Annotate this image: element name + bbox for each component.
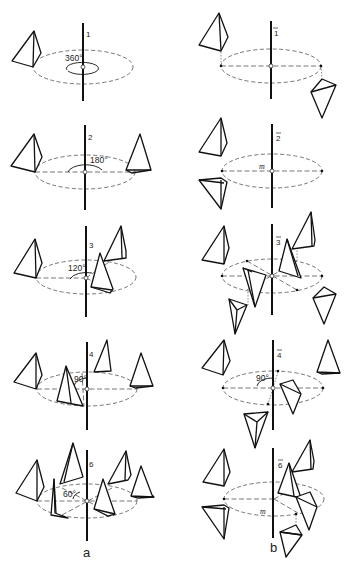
tetrahedron — [292, 440, 314, 472]
axis-label-4-bar: 4 — [277, 351, 282, 360]
tetrahedron — [313, 287, 336, 324]
axis-label-1: 1 — [86, 30, 91, 39]
panel-a-axis-3: 3 120° — [14, 226, 136, 317]
panel-b-axis-2-bar: 2 m — [199, 118, 323, 209]
tetrahedron — [199, 178, 227, 209]
tetrahedron — [16, 460, 44, 501]
tetrahedron — [108, 451, 131, 484]
tetrahedron — [202, 226, 229, 264]
tetrahedron — [296, 492, 317, 530]
angle-label-120: 120° — [68, 263, 86, 273]
tetrahedron — [244, 412, 268, 448]
angle-label-360: 360° — [65, 53, 83, 63]
tetrahedron — [202, 505, 229, 539]
tetrahedron — [199, 13, 228, 51]
axis-label-2-bar: 2 — [276, 134, 281, 143]
tetrahedron — [94, 340, 111, 372]
panel-b-axis-3-bar: 3 — [202, 212, 336, 334]
symmetry-axes-diagram: 1 360° 2 180° 3 120° — [0, 0, 352, 569]
axis-label-2: 2 — [88, 133, 93, 142]
axis-label-1-bar: 1 — [274, 29, 279, 38]
panel-b-axis-4-bar: 4 90° — [202, 340, 340, 448]
tetrahedron — [243, 268, 266, 307]
tetrahedron — [203, 449, 230, 486]
tetrahedron — [12, 31, 41, 67]
panel-a-axis-4: 4 90° — [14, 340, 153, 430]
angle-label-90: 90° — [256, 373, 269, 383]
tetrahedron — [60, 443, 83, 484]
mirror-plane-label: m — [260, 507, 266, 516]
axis-label-6-bar: 6 — [278, 461, 283, 470]
tetrahedron — [317, 340, 340, 374]
axis-label-4: 4 — [89, 350, 94, 359]
angle-label-180: 180° — [90, 155, 108, 165]
tetrahedron — [292, 212, 315, 249]
tetrahedron — [130, 353, 153, 388]
panel-a-axis-1: 1 360° — [12, 23, 133, 101]
tetrahedron — [202, 340, 230, 375]
panel-a-axis-2: 2 180° — [11, 125, 151, 210]
tetrahedron — [11, 134, 42, 172]
angle-label-90: 90° — [74, 374, 87, 384]
angle-label-60: 60° — [63, 489, 76, 499]
tetrahedron — [280, 380, 301, 414]
axis-label-6: 6 — [89, 460, 94, 469]
column-label-b: b — [270, 540, 277, 555]
tetrahedron — [14, 239, 42, 278]
mirror-plane-label: m — [259, 162, 265, 171]
tetrahedron — [311, 79, 336, 118]
axis-label-3-bar: 3 — [276, 238, 281, 247]
panel-a-axis-6: 6 60° a — [16, 443, 154, 560]
tetrahedron — [104, 226, 126, 261]
tetrahedron — [131, 466, 154, 498]
panel-b-axis-6-bar: 6 m b — [202, 440, 324, 557]
panel-b-axis-1-bar: 1 — [199, 13, 336, 118]
axis-label-3: 3 — [89, 241, 94, 250]
column-label-a: a — [83, 545, 91, 560]
tetrahedron — [126, 134, 151, 173]
tetrahedron — [199, 118, 227, 156]
tetrahedron — [229, 299, 247, 334]
tetrahedron — [14, 353, 42, 389]
tetrahedron — [280, 525, 302, 557]
